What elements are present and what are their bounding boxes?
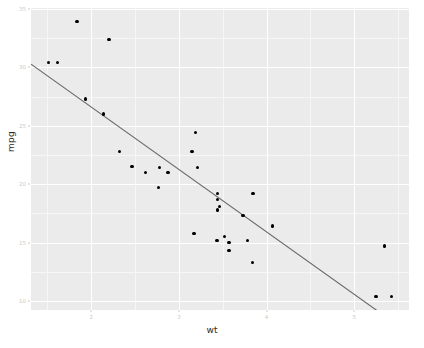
x-axis-tick-mark — [91, 310, 92, 312]
data-point — [194, 131, 197, 134]
x-axis-tick-label: 5 — [353, 314, 357, 320]
data-point — [56, 61, 59, 64]
data-point — [383, 244, 386, 247]
data-point — [227, 241, 230, 244]
data-point — [107, 38, 110, 41]
data-point — [271, 224, 274, 227]
data-point — [47, 61, 50, 64]
y-axis-tick-label: 30 — [4, 64, 26, 70]
data-point — [190, 150, 193, 153]
data-point — [215, 239, 218, 242]
y-axis-tick-mark — [28, 242, 30, 243]
data-points-layer — [31, 8, 409, 310]
y-axis-tick-mark — [28, 184, 30, 185]
data-point — [75, 20, 78, 23]
data-point — [84, 97, 87, 100]
data-point — [192, 232, 195, 235]
y-axis-tick-label: 35 — [4, 6, 26, 12]
data-point — [223, 235, 226, 238]
x-axis-tick-mark — [266, 310, 267, 312]
scatter-plot-figure: mpg wt 101520253035 2345 — [0, 0, 424, 348]
data-point — [251, 192, 254, 195]
x-axis-title: wt — [0, 325, 424, 335]
y-axis-tick-mark — [28, 300, 30, 301]
plot-panel — [31, 8, 409, 310]
x-axis-tick-label: 3 — [177, 314, 181, 320]
y-axis-tick-label: 15 — [4, 240, 26, 246]
data-point — [246, 239, 249, 242]
y-axis-tick-mark — [28, 8, 30, 9]
y-axis-tick-mark — [28, 125, 30, 126]
y-axis-tick-label: 10 — [4, 298, 26, 304]
data-point — [166, 171, 169, 174]
x-axis-tick-mark — [178, 310, 179, 312]
data-point — [390, 295, 393, 298]
data-point — [216, 208, 219, 211]
data-point — [216, 198, 219, 201]
data-point — [216, 192, 219, 195]
data-point — [374, 295, 377, 298]
data-point — [144, 171, 147, 174]
data-point — [251, 261, 254, 264]
data-point — [158, 166, 161, 169]
data-point — [241, 214, 244, 217]
data-point — [227, 249, 230, 252]
data-point — [157, 186, 160, 189]
x-axis-tick-label: 2 — [90, 314, 94, 320]
x-axis-tick-label: 4 — [265, 314, 269, 320]
y-axis-tick-label: 20 — [4, 181, 26, 187]
data-point — [118, 150, 121, 153]
x-axis-tick-mark — [354, 310, 355, 312]
data-point — [196, 166, 199, 169]
data-point — [102, 112, 105, 115]
y-axis-tick-label: 25 — [4, 123, 26, 129]
y-axis-tick-mark — [28, 67, 30, 68]
data-point — [130, 165, 133, 168]
y-axis-title: mpg — [6, 131, 16, 152]
